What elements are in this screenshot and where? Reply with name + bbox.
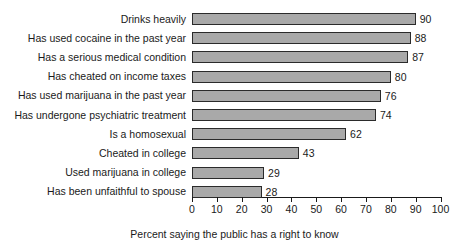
- bar: [192, 51, 408, 63]
- bar-value-label: 43: [303, 147, 315, 159]
- bar-value-label: 76: [385, 90, 397, 102]
- bar-value-label: 87: [412, 51, 424, 63]
- bar: [192, 13, 416, 25]
- x-axis-tick: [291, 197, 292, 202]
- category-label: Is a homosexual: [0, 128, 189, 140]
- x-axis-tick-label: 70: [360, 203, 372, 215]
- bar-value-label: 29: [268, 167, 280, 179]
- bar-chart: Drinks heavilyHas used cocaine in the pa…: [0, 0, 469, 250]
- x-axis-tick: [316, 197, 317, 202]
- bar: [192, 90, 381, 102]
- bar-value-label: 88: [415, 32, 427, 44]
- x-axis-tick: [242, 197, 243, 202]
- bar: [192, 32, 411, 44]
- category-label: Has been unfaithful to spouse: [0, 185, 189, 197]
- x-axis-tick: [441, 197, 442, 202]
- x-axis-tick: [217, 197, 218, 202]
- bar: [192, 128, 346, 140]
- x-axis-tick: [391, 197, 392, 202]
- category-label: Cheated in college: [0, 147, 189, 159]
- x-axis-tick-label: 40: [286, 203, 298, 215]
- x-axis-tick-label: 10: [211, 203, 223, 215]
- x-axis-tick-label: 20: [236, 203, 248, 215]
- bar-value-label: 80: [395, 71, 407, 83]
- x-axis-tick-label: 30: [261, 203, 273, 215]
- category-label: Has a serious medical condition: [0, 51, 189, 63]
- category-label: Drinks heavily: [0, 13, 189, 25]
- x-axis-tick-label: 90: [410, 203, 422, 215]
- plot-area: 9088878076746243292801020304050607080901…: [192, 0, 469, 250]
- category-label: Has used marijuana in the past year: [0, 89, 189, 101]
- bar-value-label: 74: [380, 109, 392, 121]
- x-axis-title: Percent saying the public has a right to…: [0, 228, 469, 241]
- category-label: Used marijuana in college: [0, 166, 189, 178]
- bar: [192, 186, 262, 198]
- x-axis-tick: [416, 197, 417, 202]
- x-axis-tick-label: 0: [189, 203, 195, 215]
- bar-value-label: 28: [266, 186, 278, 198]
- x-axis-tick: [341, 197, 342, 202]
- x-axis-tick-label: 80: [385, 203, 397, 215]
- bar: [192, 109, 376, 121]
- category-label: Has undergone psychiatric treatment: [0, 109, 189, 121]
- x-axis-tick: [267, 197, 268, 202]
- bar: [192, 71, 391, 83]
- x-axis-tick-label: 50: [310, 203, 322, 215]
- bar: [192, 167, 264, 179]
- bar-value-label: 62: [350, 128, 362, 140]
- category-label: Has used cocaine in the past year: [0, 32, 189, 44]
- x-axis-tick-label: 100: [432, 203, 450, 215]
- bar: [192, 147, 299, 159]
- x-axis-tick: [366, 197, 367, 202]
- x-axis-tick-label: 60: [335, 203, 347, 215]
- x-axis-tick: [192, 197, 193, 202]
- category-label: Has cheated on income taxes: [0, 70, 189, 82]
- bar-value-label: 90: [420, 13, 432, 25]
